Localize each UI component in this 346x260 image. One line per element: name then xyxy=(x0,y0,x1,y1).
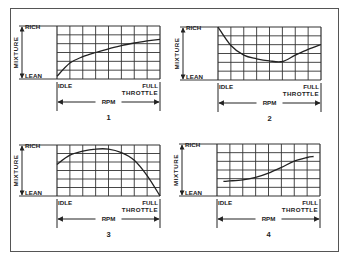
idle-label: IDLE xyxy=(58,82,72,89)
panel-number: 4 xyxy=(266,230,271,239)
throttle-label: THROTTLE xyxy=(122,206,158,213)
full-label: FULL xyxy=(142,199,158,206)
panel-1: RICHLEANMIXTUREIDLEFULLTHROTTLERPM1 xyxy=(12,23,160,122)
idle-label: IDLE xyxy=(58,199,72,206)
panel-3: RICHLEANMIXTUREIDLEFULLTHROTTLERPM3 xyxy=(12,142,160,239)
full-label: FULL xyxy=(302,199,318,206)
panel-4: RICHLEANMIXTUREIDLEFULLTHROTTLERPM4 xyxy=(172,141,320,239)
rpm-label: RPM xyxy=(263,99,277,106)
panel-2: RICHLEANMIXTUREIDLEFULLTHROTTLERPM2 xyxy=(173,24,321,123)
lean-label: LEAN xyxy=(185,189,202,196)
mixture-axis-label: MIXTURE xyxy=(173,37,180,69)
rpm-label: RPM xyxy=(102,215,116,222)
rich-label: RICH xyxy=(186,24,202,31)
lean-label: LEAN xyxy=(25,189,42,196)
throttle-label: THROTTLE xyxy=(282,206,318,213)
mixture-axis-label: MIXTURE xyxy=(12,154,19,186)
mixture-axis-label: MIXTURE xyxy=(172,154,179,186)
mixture-rpm-diagram: RICHLEANMIXTUREIDLEFULLTHROTTLERPM1RICHL… xyxy=(0,0,346,260)
idle-label: IDLE xyxy=(219,83,233,90)
mixture-axis-label: MIXTURE xyxy=(12,36,19,68)
rpm-label: RPM xyxy=(102,98,116,105)
full-label: FULL xyxy=(303,83,319,90)
lean-label: LEAN xyxy=(186,73,203,80)
rich-label: RICH xyxy=(185,141,201,148)
throttle-label: THROTTLE xyxy=(283,90,319,97)
rpm-label: RPM xyxy=(262,215,276,222)
panel-number: 1 xyxy=(106,113,110,122)
idle-label: IDLE xyxy=(218,199,232,206)
lean-label: LEAN xyxy=(25,72,42,79)
panel-number: 2 xyxy=(267,114,271,123)
throttle-label: THROTTLE xyxy=(122,89,158,96)
panel-number: 3 xyxy=(106,230,110,239)
full-label: FULL xyxy=(142,82,158,89)
rich-label: RICH xyxy=(25,23,41,30)
rich-label: RICH xyxy=(25,142,41,149)
